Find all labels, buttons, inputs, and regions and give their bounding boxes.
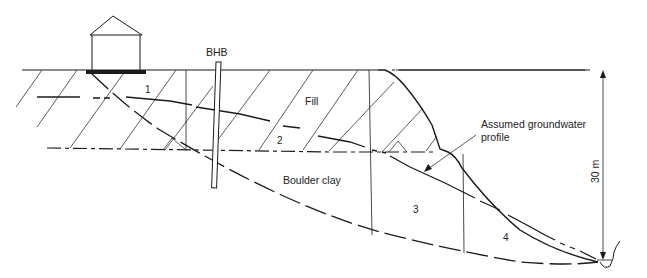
house-icon [86,16,146,74]
slice-1-label: 1 [145,84,151,95]
house-foundation [86,70,146,74]
slice-2-label: 2 [277,135,283,146]
fill-label: Fill [305,95,318,107]
borehole-bhb [212,62,221,188]
groundwater-label-line2: profile [481,131,510,143]
slice-4-label: 4 [503,232,509,243]
slope-cross-section-diagram: BHB Fill Boulder clay 1 2 3 4 Assumed gr… [0,0,647,278]
groundwater-leader-arrow [424,135,476,172]
borehole-label: BHB [206,46,228,58]
slice-boundaries [186,70,464,253]
slice-3-label: 3 [413,204,419,215]
ground-surface [22,70,620,267]
boulder-clay-label: Boulder clay [283,174,342,186]
groundwater-label-line1: Assumed groundwater [481,118,587,130]
height-label: 30 m [589,159,601,183]
slip-surface [92,74,598,264]
fill-hatching [16,70,437,152]
